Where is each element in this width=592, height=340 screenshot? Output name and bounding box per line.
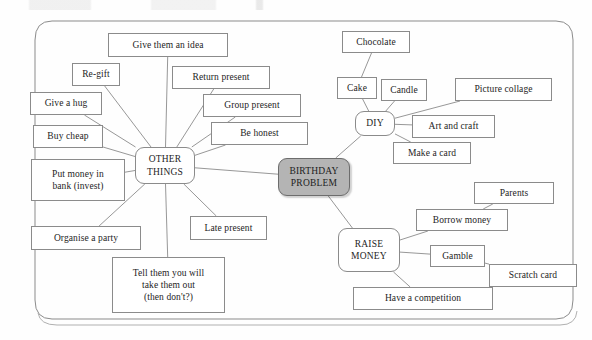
link-other-things-to-put-money-in-bank [125, 171, 135, 173]
node-chocolate[interactable]: Chocolate [342, 31, 410, 53]
node-borrow-money[interactable]: Borrow money [416, 209, 508, 231]
branch-node-raise-money[interactable]: RAISE MONEY [338, 228, 400, 272]
node-buy-cheap[interactable]: Buy cheap [33, 125, 103, 148]
node-tell-them-take-out[interactable]: Tell them you will take them out (then d… [112, 257, 225, 313]
node-give-them-an-idea[interactable]: Give them an idea [108, 33, 228, 57]
link-other-things-to-re-gift [105, 86, 151, 147]
node-candle[interactable]: Candle [381, 79, 427, 101]
link-other-things-to-be-honest [195, 145, 226, 155]
node-late-present[interactable]: Late present [190, 216, 267, 240]
link-diy-to-art-and-craft [395, 124, 412, 125]
node-put-money-in-bank[interactable]: Put money in bank (invest) [31, 159, 125, 201]
link-other-things-to-tell-them-take-out [166, 184, 168, 257]
node-cake[interactable]: Cake [337, 77, 377, 99]
link-cake-to-chocolate [362, 53, 372, 77]
mindmap-canvas: BIRTHDAY PROBLEM OTHER THINGS DIY RAISE … [0, 0, 592, 340]
link-center-to-raise-money [328, 196, 352, 228]
link-other-things-to-give-them-an-idea [166, 57, 168, 147]
link-diy-to-cake [363, 99, 369, 111]
node-scratch-card[interactable]: Scratch card [489, 264, 577, 287]
link-raise-money-to-borrow-money [400, 231, 428, 240]
link-other-things-to-buy-cheap [103, 147, 135, 157]
link-raise-money-to-gamble [400, 252, 430, 254]
branch-node-other-things[interactable]: OTHER THINGS [135, 147, 195, 184]
link-center-to-other-things [195, 168, 278, 174]
node-give-a-hug[interactable]: Give a hug [30, 92, 102, 115]
node-organise-a-party[interactable]: Organise a party [31, 226, 141, 250]
link-raise-money-to-have-a-competition [394, 272, 411, 287]
node-return-present[interactable]: Return present [172, 66, 270, 89]
node-group-present[interactable]: Group present [203, 94, 301, 117]
node-picture-collage[interactable]: Picture collage [455, 78, 552, 101]
central-node-birthday-problem[interactable]: BIRTHDAY PROBLEM [278, 158, 350, 196]
node-make-a-card[interactable]: Make a card [393, 142, 471, 164]
node-gamble[interactable]: Gamble [430, 245, 485, 267]
link-diy-to-make-a-card [395, 134, 411, 142]
branch-node-diy[interactable]: DIY [355, 111, 395, 136]
node-art-and-craft[interactable]: Art and craft [412, 115, 495, 138]
node-parents[interactable]: Parents [474, 182, 554, 204]
node-re-gift[interactable]: Re-gift [72, 63, 120, 86]
link-center-to-diy [336, 136, 361, 158]
node-be-honest[interactable]: Be honest [211, 122, 308, 145]
link-other-things-to-late-present [184, 184, 217, 216]
link-diy-to-candle [386, 101, 395, 111]
node-have-a-competition[interactable]: Have a competition [353, 287, 493, 310]
